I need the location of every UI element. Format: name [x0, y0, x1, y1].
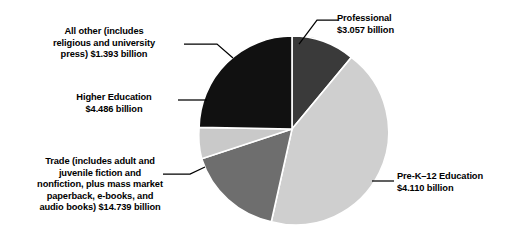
- callout-label-trade: Trade (includes adult and juvenile ficti…: [2, 156, 198, 214]
- pie-slice-all-other[interactable]: [199, 36, 292, 129]
- callout-label-all-other: All other (includes religious and univer…: [28, 26, 180, 61]
- callout-label-pre-k-12-education: Pre-K–12 Education $4.110 billion: [397, 171, 517, 194]
- pie-chart-figure: All other (includes religious and univer…: [0, 0, 518, 229]
- leader-line-all-other: [184, 44, 233, 58]
- pie-slices: [199, 36, 389, 225]
- callout-label-professional: Professional $3.057 billion: [337, 13, 497, 36]
- callout-label-higher-education: Higher Education $4.486 billion: [52, 92, 176, 115]
